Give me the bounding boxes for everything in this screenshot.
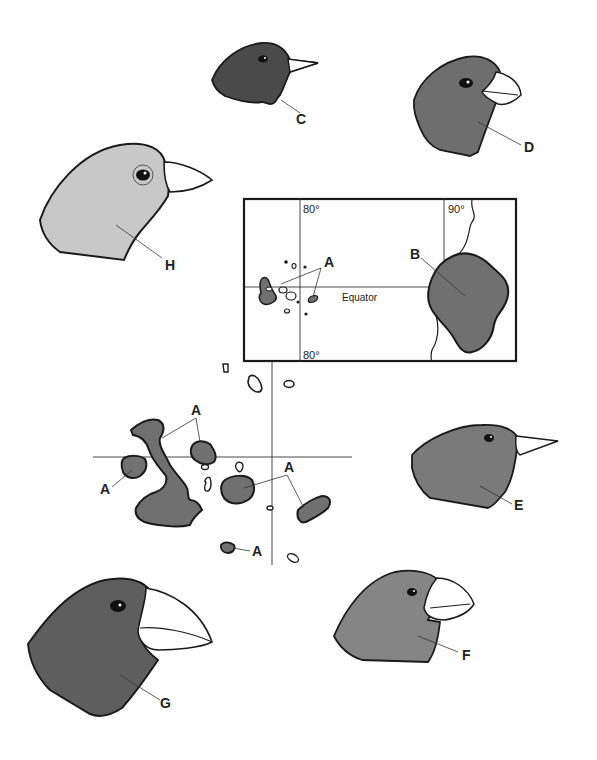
inset-islands-label-a: A [324,254,334,270]
island-label-a-north: A [191,402,201,418]
finch-label-d: D [524,139,534,155]
inset-longitude-80-bottom: 80° [303,349,320,361]
galapagos-map: A A A A [93,361,352,565]
inset-map: 80° 90° 80° Equator A B [244,199,516,361]
island-san-cristobal [297,496,330,522]
finch-label-h: H [165,257,175,273]
finch-head-d: D [414,56,534,156]
island-label-a-west: A [100,481,110,497]
finch-label-f: F [462,647,471,663]
finch-head-f: F [334,571,474,663]
mainland-label-b: B [410,246,420,262]
island-santiago [191,441,216,464]
island-santa-cruz [221,476,254,504]
island-floreana [221,542,235,553]
island-label-a-south: A [252,543,262,559]
finch-label-e: E [514,497,523,513]
inset-longitude-90: 90° [448,203,465,215]
island-label-a-east: A [284,459,294,475]
finch-label-g: G [160,695,171,711]
finch-head-h: H [40,144,212,273]
finch-diagram: 80° 90° 80° Equator A B [0,0,597,760]
finch-head-c: C [212,43,318,127]
equator-label: Equator [342,292,378,303]
island-fernandina [122,456,147,478]
finch-head-g: G [28,578,212,716]
inset-longitude-80-top: 80° [303,203,320,215]
finch-head-e: E [412,425,558,513]
finch-label-c: C [296,111,306,127]
